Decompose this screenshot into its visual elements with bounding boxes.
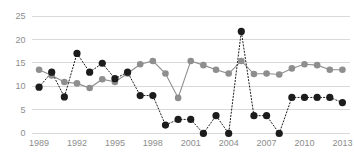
data-point	[162, 121, 169, 128]
data-point	[314, 94, 321, 101]
x-tick-label: 2010	[294, 138, 314, 148]
data-point	[276, 71, 283, 78]
data-point	[61, 79, 68, 86]
x-tick-label: 1998	[143, 138, 163, 148]
data-point	[150, 58, 157, 65]
chart-container: 0510152025 19891992199519982001200420072…	[0, 0, 354, 161]
x-tick-label: 2007	[257, 138, 277, 148]
data-point	[124, 69, 131, 76]
data-point	[36, 67, 43, 74]
data-point	[326, 94, 333, 101]
data-point	[213, 67, 220, 74]
data-point	[225, 130, 232, 137]
data-point	[86, 85, 93, 92]
data-point	[301, 94, 308, 101]
x-axis-tick-labels: 198919921995199820012004200720102013	[29, 138, 352, 148]
data-point	[263, 112, 270, 119]
x-tick-label: 1989	[29, 138, 49, 148]
data-point	[149, 92, 156, 99]
x-tick-label: 2001	[181, 138, 201, 148]
y-tick-label: 0	[20, 128, 25, 138]
data-point	[339, 99, 346, 106]
data-point	[250, 112, 257, 119]
series-line-1	[39, 61, 342, 98]
data-point	[288, 94, 295, 101]
data-point	[212, 112, 219, 119]
data-point	[339, 67, 346, 74]
x-tick-label: 2004	[219, 138, 239, 148]
data-point	[73, 50, 80, 57]
x-tick-label: 2013	[332, 138, 352, 148]
data-point	[187, 116, 194, 123]
data-point	[301, 61, 308, 68]
data-point	[175, 95, 182, 102]
x-tick-label: 1992	[67, 138, 87, 148]
data-point	[200, 130, 207, 137]
data-point	[187, 58, 194, 65]
data-point	[200, 62, 207, 69]
y-tick-label: 10	[15, 81, 25, 91]
data-point	[251, 71, 258, 78]
data-point	[238, 58, 245, 65]
data-point	[86, 69, 93, 76]
series-points	[35, 28, 346, 137]
line-chart: 0510152025 19891992199519982001200420072…	[0, 0, 354, 161]
y-tick-label: 20	[15, 35, 25, 45]
y-tick-label: 15	[15, 58, 25, 68]
data-point	[61, 93, 68, 100]
data-point	[175, 116, 182, 123]
data-point	[35, 84, 42, 91]
data-point	[137, 61, 144, 68]
x-tick-label: 1995	[105, 138, 125, 148]
data-point	[99, 76, 106, 83]
data-point	[99, 60, 106, 67]
data-point	[225, 70, 232, 77]
data-point	[263, 70, 270, 77]
data-point	[326, 67, 333, 74]
data-point	[238, 28, 245, 35]
data-point	[137, 92, 144, 99]
y-axis-tick-labels: 0510152025	[15, 11, 25, 138]
y-tick-label: 5	[20, 105, 25, 115]
data-point	[48, 69, 55, 76]
data-point	[162, 70, 169, 77]
y-tick-label: 25	[15, 11, 25, 21]
data-point	[74, 80, 81, 87]
data-point	[314, 62, 321, 69]
data-point	[276, 130, 283, 137]
data-point	[289, 65, 296, 72]
gridlines	[32, 16, 351, 133]
data-point	[111, 75, 118, 82]
